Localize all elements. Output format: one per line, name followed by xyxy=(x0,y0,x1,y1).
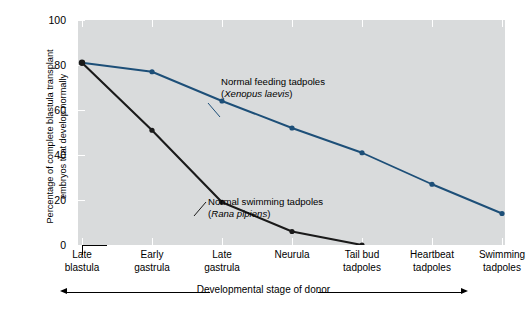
annotation-rana: Normal swimming tadpoles (Rana pipiens) xyxy=(208,196,323,219)
data-point-s0-3 xyxy=(289,125,294,130)
x-category-label-swimming-tadpoles: Swimming tadpoles xyxy=(459,249,527,274)
y-tick-label-100: 100 xyxy=(36,15,66,25)
data-point-s0-1 xyxy=(149,69,154,74)
data-point-s1-1 xyxy=(149,128,154,133)
arrow-head-right-icon xyxy=(461,288,468,294)
y-tick-label-60: 60 xyxy=(36,105,66,115)
annotation-rana-line2: (Rana pipiens) xyxy=(208,208,323,220)
data-point-s0-5 xyxy=(429,182,434,187)
data-point-s0-6 xyxy=(499,211,504,216)
annotation-rana-paren-close: ) xyxy=(267,208,270,219)
x-axis-title: Developmental stage of donor xyxy=(0,284,527,295)
arrow-line-right xyxy=(318,292,461,293)
annotation-xenopus-line2: (Xenopus laevis) xyxy=(221,88,325,100)
annotation-xenopus-species: Xenopus laevis xyxy=(224,88,289,99)
y-tick-label-40: 40 xyxy=(36,150,66,160)
leader-bracket-late-blastula xyxy=(82,245,107,255)
x-axis-title-row: Developmental stage of donor xyxy=(0,282,527,304)
annotation-rana-species: Rana pipiens xyxy=(211,208,267,219)
data-point-s1-0 xyxy=(79,60,85,66)
y-tick-label-20: 20 xyxy=(36,195,66,205)
annotation-xenopus: Normal feeding tadpoles (Xenopus laevis) xyxy=(221,76,325,99)
y-tick-label-80: 80 xyxy=(36,60,66,70)
figure-chart-transplant-success: Percentage of complete blastula transpla… xyxy=(0,0,527,315)
data-point-s1-3 xyxy=(289,229,294,234)
annotation-xenopus-paren-close: ) xyxy=(289,88,292,99)
annotation-rana-line1: Normal swimming tadpoles xyxy=(208,196,323,208)
y-axis-title: Percentage of complete blastula transpla… xyxy=(44,17,69,257)
data-point-s0-4 xyxy=(359,150,364,155)
data-point-s1-4 xyxy=(359,242,364,245)
annotation-xenopus-line1: Normal feeding tadpoles xyxy=(221,76,325,88)
